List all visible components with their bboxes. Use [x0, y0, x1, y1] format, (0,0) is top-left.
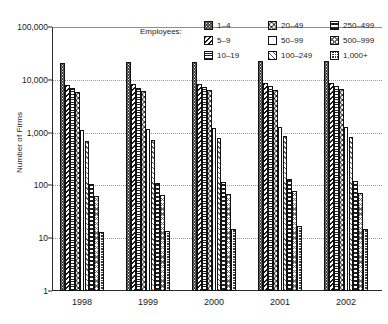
bar	[363, 229, 368, 291]
bar	[349, 137, 354, 291]
bar	[217, 138, 222, 291]
legend-item[interactable]: 1,000+	[330, 48, 374, 63]
bar	[94, 196, 99, 291]
legend-swatch	[268, 21, 277, 30]
bar	[334, 86, 339, 291]
legend-label: 5–9	[217, 37, 230, 45]
legend-label: 500–999	[343, 37, 374, 45]
legend-column-3: 250–499500–9991,000+	[330, 18, 374, 63]
bar	[344, 127, 349, 291]
legend-label: 20–49	[281, 22, 303, 30]
x-tick-label: 2002	[336, 297, 356, 307]
bar	[89, 184, 94, 291]
legend-label: 50–99	[281, 37, 303, 45]
x-tick-label: 1998	[72, 297, 92, 307]
bar	[273, 90, 278, 291]
bar	[202, 87, 207, 291]
legend-item[interactable]: 100–249	[268, 48, 312, 63]
bar	[146, 129, 151, 291]
legend-label: 250–499	[343, 22, 374, 30]
legend-swatch	[204, 36, 213, 45]
legend-swatch	[330, 51, 339, 60]
bar	[353, 181, 358, 291]
bar	[60, 63, 65, 291]
legend-column-2: 20–4950–99100–249	[268, 18, 312, 63]
legend-swatch	[330, 36, 339, 45]
legend-item[interactable]: 10–19	[204, 48, 239, 63]
legend-item[interactable]: 5–9	[204, 33, 239, 48]
bar	[212, 128, 217, 291]
legend-label: 100–249	[281, 52, 312, 60]
legend-item[interactable]: 500–999	[330, 33, 374, 48]
bar	[80, 130, 85, 291]
bar	[324, 61, 329, 291]
bar	[358, 193, 363, 291]
chart-container: Number of Firms 1101001,00010,000100,000…	[0, 0, 388, 324]
bar-group	[60, 27, 104, 291]
legend-item[interactable]: 50–99	[268, 33, 312, 48]
y-tick-label: 1	[2, 286, 48, 296]
bar	[160, 195, 165, 291]
legend-item[interactable]: 250–499	[330, 18, 374, 33]
bar	[197, 84, 202, 291]
bar	[207, 90, 212, 291]
bar	[339, 89, 344, 291]
bar	[141, 91, 146, 291]
y-tick-label: 100,000	[2, 22, 48, 32]
bar	[165, 231, 170, 292]
legend-swatch	[268, 36, 277, 45]
bar	[226, 194, 231, 291]
legend-swatch	[204, 51, 213, 60]
legend-item[interactable]: 20–49	[268, 18, 312, 33]
legend-swatch	[204, 21, 213, 30]
y-tick-label: 10,000	[2, 75, 48, 85]
bar	[136, 88, 141, 291]
bar	[85, 141, 90, 291]
x-tick-label: 1999	[138, 297, 158, 307]
bar	[99, 232, 104, 291]
bar	[131, 84, 136, 291]
legend-label: 10–19	[217, 52, 239, 60]
legend-swatch	[330, 21, 339, 30]
bar	[283, 136, 288, 291]
bar	[231, 229, 236, 291]
y-tick-label: 100	[2, 180, 48, 190]
bar	[268, 86, 273, 291]
legend-swatch	[268, 51, 277, 60]
legend-item[interactable]: 1–4	[204, 18, 239, 33]
bar	[297, 226, 302, 291]
y-tick-label: 1,000	[2, 128, 48, 138]
legend-title: Employees:	[140, 27, 182, 36]
bar	[221, 182, 226, 291]
bar	[278, 127, 283, 291]
bar	[263, 83, 268, 291]
bar	[292, 191, 297, 291]
x-tick-label: 2000	[204, 297, 224, 307]
bar	[329, 83, 334, 291]
bar	[287, 179, 292, 291]
legend-label: 1,000+	[343, 52, 368, 60]
bar	[70, 88, 75, 291]
bar	[258, 61, 263, 291]
bar	[155, 183, 160, 291]
legend-label: 1–4	[217, 22, 230, 30]
x-tick-label: 2001	[270, 297, 290, 307]
bar	[151, 140, 156, 291]
y-axis-ticks: 1101001,00010,000100,000	[0, 0, 48, 324]
y-tick-label: 10	[2, 233, 48, 243]
legend-column-1: 1–45–910–19	[204, 18, 239, 63]
bar	[192, 62, 197, 291]
y-axis-line	[52, 27, 53, 291]
bar	[65, 85, 70, 291]
bar	[75, 92, 80, 291]
bar	[126, 62, 131, 291]
